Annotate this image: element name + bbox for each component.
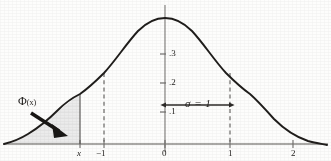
sigma-label: σ = 1 [185, 98, 211, 109]
x-tick-label-x: x [77, 149, 81, 158]
x-tick-label-minus-one: −1 [96, 149, 106, 158]
x-tick-label-two: 2 [291, 149, 296, 158]
x-tick-label-zero: 0 [162, 149, 167, 158]
phi-argument: (x) [27, 98, 36, 107]
x-tick-label-one: 1 [228, 149, 233, 158]
phi-callout-label: Φ(x) [18, 95, 36, 107]
phi-symbol: Φ [18, 94, 27, 108]
normal-distribution-figure: Φ(x) σ = 1 x −1 0 1 2 .3 .2 .1 [0, 0, 331, 161]
y-tick-label-point-two: .2 [169, 78, 176, 87]
y-tick-label-point-three: .3 [169, 49, 176, 58]
y-tick-label-point-one: .1 [169, 107, 176, 116]
distribution-plot [0, 0, 331, 161]
